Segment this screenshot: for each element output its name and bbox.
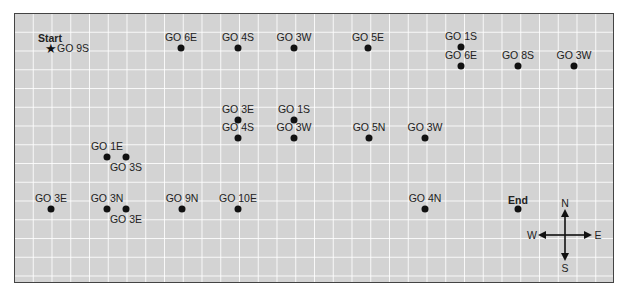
compass-east: E <box>594 229 601 241</box>
compass-arrows-icon <box>0 0 621 292</box>
compass-west: W <box>527 229 537 241</box>
compass-south: S <box>561 262 568 274</box>
compass-north: N <box>561 197 569 209</box>
